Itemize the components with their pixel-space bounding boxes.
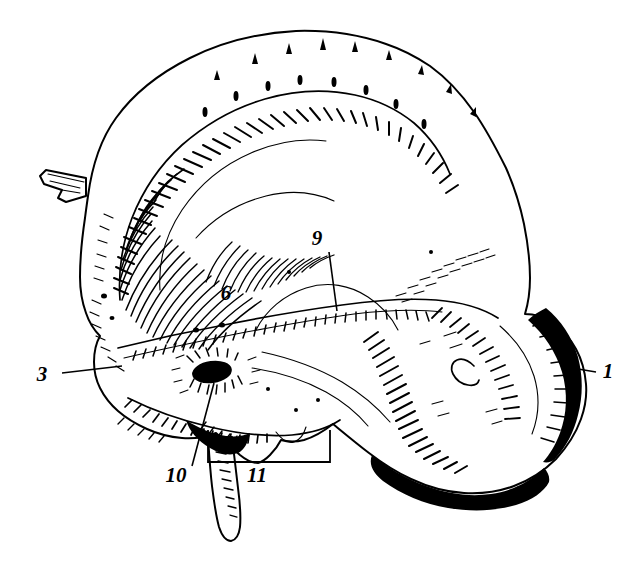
- label-6: 6: [221, 281, 232, 305]
- label-11: 11: [247, 463, 267, 487]
- temporal-bone-illustration: 3 1 6 9 10 11: [0, 0, 628, 563]
- anatomical-figure: 3 1 6 9 10 11: [0, 0, 628, 563]
- label-3: 3: [36, 362, 48, 386]
- label-10: 10: [166, 463, 188, 487]
- label-1: 1: [603, 359, 614, 383]
- label-9: 9: [312, 226, 323, 250]
